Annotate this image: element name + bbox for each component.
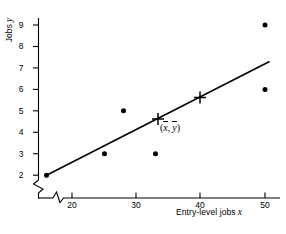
data-point — [102, 151, 107, 156]
y-axis-variable: y — [4, 18, 14, 24]
x-tick-label: 50 — [255, 200, 275, 210]
data-point — [44, 173, 49, 178]
data-point — [263, 23, 268, 28]
y-axis-ticks — [33, 25, 39, 175]
data-points — [44, 23, 268, 178]
y-tick-label: 5 — [11, 106, 31, 116]
x-axis-ticks — [72, 193, 265, 199]
y-axis-break-icon — [34, 180, 44, 193]
mean-point-label: (x, y) — [160, 122, 180, 133]
y-tick-label: 9 — [11, 20, 31, 30]
y-tick-label: 3 — [11, 149, 31, 159]
x-bar: x — [163, 122, 167, 133]
comma: , — [168, 122, 171, 133]
x-axis-title-text: Entry-level jobs — [176, 207, 236, 217]
x-tick-label: 20 — [62, 200, 82, 210]
y-tick-label: 6 — [11, 84, 31, 94]
plot-canvas — [0, 0, 286, 234]
y-axis-title-text: Jobs — [4, 24, 14, 42]
scatter-plot-figure: 2 3 4 5 6 7 8 9 20 30 40 50 Jobsy Entry-… — [0, 0, 286, 234]
y-tick-label: 7 — [11, 63, 31, 73]
y-tick-label: 2 — [11, 170, 31, 180]
y-tick-label: 8 — [11, 41, 31, 51]
y-tick-label: 4 — [11, 127, 31, 137]
x-axis-variable: x — [236, 207, 242, 217]
data-point — [263, 87, 268, 92]
close-paren: ) — [177, 122, 180, 133]
data-point — [121, 108, 126, 113]
y-axis-title: Jobsy — [4, 8, 14, 52]
x-tick-label: 30 — [126, 200, 146, 210]
x-axis-title: Entry-level jobsx — [176, 207, 242, 217]
data-point — [153, 151, 158, 156]
y-bar: y — [172, 122, 176, 133]
